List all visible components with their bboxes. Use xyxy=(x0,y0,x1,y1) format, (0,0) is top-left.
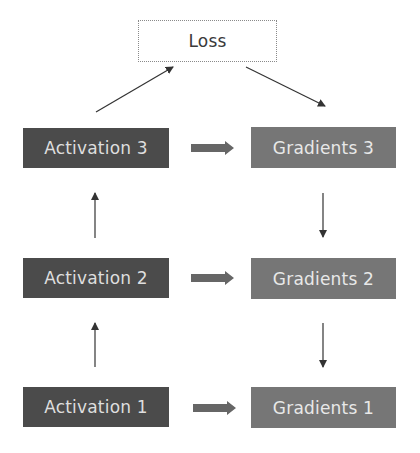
block-arrow-row2 xyxy=(191,271,234,285)
connector-layer xyxy=(0,0,420,453)
block-arrow-row1 xyxy=(193,401,236,415)
block-arrow-row3 xyxy=(191,141,234,155)
arrow-loss-to-gradients3 xyxy=(246,67,325,106)
arrow-activation3-to-loss xyxy=(96,67,173,112)
